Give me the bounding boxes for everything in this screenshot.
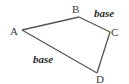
diagram-svg: A B C D base base xyxy=(0,0,129,84)
vertex-label-c: C xyxy=(111,26,118,38)
vertex-label-a: A xyxy=(10,25,18,37)
edge-cd xyxy=(97,32,110,73)
vertex-label-d: D xyxy=(96,73,104,84)
edge-ab xyxy=(22,17,79,30)
quadrilateral-diagram: A B C D base base xyxy=(0,0,129,84)
edge-bc xyxy=(79,17,110,32)
edge-da xyxy=(22,30,97,73)
side-label-ad-base: base xyxy=(33,53,53,65)
side-label-bc-base: base xyxy=(94,7,114,19)
vertex-label-b: B xyxy=(72,3,79,15)
